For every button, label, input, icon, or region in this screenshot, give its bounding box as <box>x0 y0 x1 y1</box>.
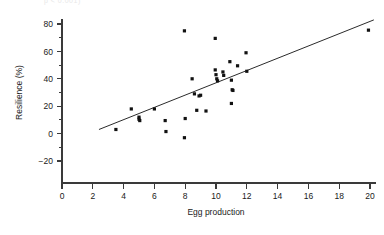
data-point <box>230 79 233 82</box>
x-tick-label: 2 <box>90 191 95 201</box>
data-point <box>216 79 219 82</box>
regression-line <box>99 20 374 130</box>
y-tick-label: 20 <box>44 101 54 111</box>
axes-group <box>62 19 376 183</box>
data-point <box>367 29 370 32</box>
data-point <box>199 94 202 97</box>
data-point <box>191 77 194 80</box>
x-tick-label: 6 <box>152 191 157 201</box>
data-point <box>164 119 167 122</box>
data-point <box>195 109 198 112</box>
data-point <box>114 128 117 131</box>
regression-line-path <box>99 20 374 130</box>
data-point <box>236 64 239 67</box>
ticks-group <box>57 24 371 189</box>
data-point <box>204 109 207 112</box>
data-point <box>138 119 141 122</box>
data-point <box>221 70 224 73</box>
axis-titles-group: Egg productionResilience (%) <box>14 65 245 217</box>
data-point <box>230 102 233 105</box>
data-point <box>222 74 225 77</box>
data-point <box>183 29 186 32</box>
x-axis-title: Egg production <box>187 207 244 217</box>
data-point <box>214 73 217 76</box>
x-tick-label: 0 <box>60 191 65 201</box>
x-tick-label: 4 <box>121 191 126 201</box>
data-point <box>184 117 187 120</box>
data-point <box>214 37 217 40</box>
data-point <box>153 107 156 110</box>
y-tick-label: 40 <box>44 74 54 84</box>
y-tick-label: 80 <box>44 19 54 29</box>
data-point <box>130 107 133 110</box>
x-tick-label: 12 <box>242 191 252 201</box>
x-tick-label: 10 <box>211 191 221 201</box>
plot-canvas: −2002040608002468101214161820 Egg produc… <box>0 0 384 235</box>
x-tick-label: 8 <box>183 191 188 201</box>
data-points-group <box>114 29 370 140</box>
data-point <box>231 89 234 92</box>
scatter-plot-figure: p < 0.001) −2002040608002468101214161820… <box>0 0 384 235</box>
data-point <box>244 51 247 54</box>
y-tick-label: −20 <box>39 156 54 166</box>
y-tick-label: 60 <box>44 47 54 57</box>
data-point <box>245 70 248 73</box>
data-point <box>228 60 231 63</box>
y-axis-title: Resilience (%) <box>14 65 24 120</box>
data-point <box>214 68 217 71</box>
y-tick-label: 0 <box>48 129 53 139</box>
x-tick-label: 20 <box>365 191 375 201</box>
x-tick-label: 18 <box>334 191 344 201</box>
x-tick-label: 14 <box>273 191 283 201</box>
data-point <box>164 130 167 133</box>
x-tick-label: 16 <box>304 191 314 201</box>
data-point <box>193 92 196 95</box>
data-point <box>183 136 186 139</box>
